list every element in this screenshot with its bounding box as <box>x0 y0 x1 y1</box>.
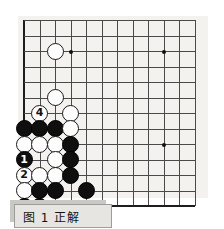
board-gridline-horizontal <box>24 20 195 21</box>
stone-white[interactable] <box>16 182 33 199</box>
stone-white[interactable] <box>62 120 79 137</box>
stone-black[interactable] <box>78 182 95 199</box>
go-problem-figure: 41253 图 1 正解 <box>0 0 224 229</box>
stone-black[interactable] <box>62 151 79 168</box>
board-gridline-horizontal <box>24 82 195 83</box>
stone-move-number: 4 <box>36 107 44 118</box>
star-point <box>69 50 73 54</box>
stone-black[interactable] <box>47 182 64 199</box>
stone-white[interactable] <box>16 136 33 153</box>
stone-black[interactable] <box>62 136 79 153</box>
star-point <box>162 50 166 54</box>
stone-move-number: 2 <box>20 169 28 180</box>
stone-white[interactable] <box>47 151 64 168</box>
stone-white[interactable] <box>47 136 64 153</box>
stone-white[interactable] <box>47 89 64 106</box>
stone-black-move-1[interactable]: 1 <box>16 151 33 168</box>
stone-white[interactable] <box>31 167 48 184</box>
stone-white[interactable] <box>31 136 48 153</box>
stone-white[interactable] <box>47 43 64 60</box>
stone-black[interactable] <box>16 120 33 137</box>
stone-black[interactable] <box>31 182 48 199</box>
star-point <box>162 143 166 147</box>
stone-white-move-2[interactable]: 2 <box>16 167 33 184</box>
stone-black[interactable] <box>47 120 64 137</box>
go-board[interactable]: 41253 <box>18 16 208 198</box>
board-gridline-vertical <box>195 20 196 206</box>
figure-caption: 图 1 正解 <box>14 204 112 228</box>
stone-black[interactable] <box>62 167 79 184</box>
board-gridline-horizontal <box>24 113 195 114</box>
stone-white-move-4[interactable]: 4 <box>31 105 48 122</box>
stone-move-number: 1 <box>20 154 28 165</box>
stone-white[interactable] <box>62 105 79 122</box>
figure-caption-label: 图 1 正解 <box>15 208 80 225</box>
stone-white[interactable] <box>47 167 64 184</box>
board-gridline-horizontal <box>24 67 195 68</box>
stone-black[interactable] <box>31 120 48 137</box>
board-gridline-horizontal <box>24 36 195 37</box>
